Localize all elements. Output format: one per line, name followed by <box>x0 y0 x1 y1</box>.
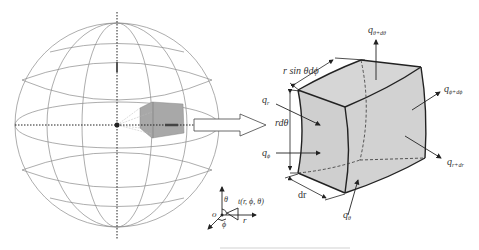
label-q-theta-dtheta: qθ+dθ <box>368 25 386 36</box>
label-q-r-dr: qr+dr <box>447 157 464 168</box>
label-dr: dr <box>298 190 306 200</box>
diagram-svg <box>0 0 479 250</box>
sphere-center <box>115 123 120 128</box>
faded-caption <box>220 247 350 249</box>
label-r-sin-theta-dphi: r sin θdϕ <box>283 66 319 76</box>
coord-axes <box>208 187 256 229</box>
diagram-canvas: r sin θdϕ rdθ dr qr qϕ qθ qθ+dθ qϕ+dϕ qr… <box>0 0 479 250</box>
label-theta: θ <box>224 196 228 204</box>
volume-element <box>298 60 426 193</box>
label-origin: o <box>212 210 217 219</box>
label-r-dtheta: rdθ <box>275 118 288 128</box>
label-r-axis: r <box>243 216 247 225</box>
label-q-phi-dphi: qϕ+dϕ <box>444 84 462 95</box>
label-q-phi: qϕ <box>262 148 270 159</box>
label-q-r: qr <box>262 95 269 106</box>
label-q-theta: qθ <box>343 210 351 221</box>
sphere-element <box>117 102 184 138</box>
label-point: t(r, ϕ, θ) <box>238 198 264 206</box>
label-phi: ϕ <box>222 221 226 229</box>
hollow-arrow <box>194 114 266 136</box>
